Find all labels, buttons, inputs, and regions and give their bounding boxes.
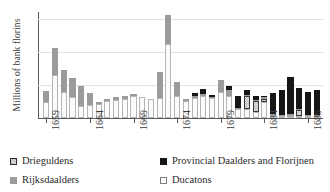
bar-segment <box>69 97 75 118</box>
y-axis-line <box>38 12 39 119</box>
bar-1676 <box>192 93 198 118</box>
bar-segment <box>61 70 67 92</box>
bar-segment <box>261 102 267 118</box>
bar-1684 <box>261 96 267 118</box>
bar-segment <box>157 72 163 99</box>
bar-1667 <box>113 97 119 118</box>
bar-segment <box>165 15 171 44</box>
bar-1679 <box>218 80 224 118</box>
bar-segment <box>235 96 241 108</box>
x-tick-mark <box>264 118 265 123</box>
bar-segment <box>244 96 250 108</box>
bar-segment <box>253 112 259 118</box>
x-tick-mark <box>221 118 222 123</box>
bar-1668 <box>122 96 128 118</box>
bar-1672 <box>157 72 163 118</box>
legend-item: Ducatons <box>160 175 326 186</box>
bar-1683 <box>253 96 259 118</box>
bar-1682 <box>244 90 250 118</box>
bar-segment <box>218 80 224 92</box>
gridline <box>38 19 323 20</box>
bar-1669 <box>130 94 136 118</box>
bar-segment <box>87 93 93 105</box>
bar-1686 <box>279 90 285 118</box>
bar-segment <box>209 98 215 118</box>
bar-segment <box>43 91 49 103</box>
legend-label: Provincial Daalders and Florijnen <box>172 156 314 167</box>
legend-label: Ducatons <box>172 175 212 186</box>
bar-1659 <box>43 91 49 118</box>
x-tick-label: 1664 <box>94 96 105 130</box>
bar-segment <box>78 106 84 118</box>
bar-1677 <box>200 89 206 118</box>
bar-segment <box>174 82 180 96</box>
bar-segment <box>174 96 180 118</box>
legend-item: Drieguldens <box>10 156 160 167</box>
bar-segment <box>296 116 302 118</box>
bar-1666 <box>104 99 110 118</box>
x-tick-mark <box>134 118 135 123</box>
bar-segment <box>78 86 84 106</box>
bar-segment <box>192 98 198 118</box>
bar-segment <box>157 98 163 118</box>
bar-1664 <box>87 93 93 118</box>
x-tick-label: 1689 <box>312 96 323 130</box>
legend-swatch-icon <box>160 158 167 165</box>
y-axis-title: Millions of bank florins <box>12 6 22 124</box>
bar-segment <box>296 88 302 109</box>
x-tick-label: 1659 <box>50 96 61 130</box>
x-tick-label: 1684 <box>268 96 279 130</box>
bar-segment <box>287 77 293 114</box>
x-tick-mark <box>308 118 309 123</box>
bar-1678 <box>209 95 215 118</box>
bar-1674 <box>174 82 180 118</box>
legend-item: Rijksdaalders <box>10 175 160 186</box>
bar-1662 <box>69 78 75 118</box>
bar-segment <box>279 90 285 115</box>
bar-1673 <box>165 15 171 118</box>
bar-segment <box>165 44 171 118</box>
bar-1689 <box>305 92 311 118</box>
plot-area: 02461659166416691674167916841689 <box>38 12 323 118</box>
bar-1688 <box>296 88 302 118</box>
chart-legend: DrieguldensProvincial Daalders and Flori… <box>10 152 326 190</box>
bar-segment <box>130 96 136 118</box>
bar-segment <box>200 96 206 118</box>
chart-figure: Millions of bank florins 024616591664166… <box>0 0 330 192</box>
bar-segment <box>43 102 49 118</box>
legend-swatch-icon <box>10 177 17 184</box>
bar-segment <box>87 105 93 118</box>
legend-label: Drieguldens <box>22 156 73 167</box>
bar-segment <box>218 92 224 118</box>
bar-segment <box>61 92 67 119</box>
x-tick-label: 1669 <box>138 96 149 130</box>
x-tick-label: 1679 <box>225 96 236 130</box>
bar-segment <box>235 109 241 118</box>
x-tick-mark <box>90 118 91 123</box>
x-tick-mark <box>177 118 178 123</box>
legend-swatch-icon <box>160 177 167 184</box>
bar-segment <box>113 100 119 118</box>
bar-segment <box>69 78 75 97</box>
bar-segment <box>122 99 128 118</box>
bar-1663 <box>78 86 84 118</box>
bar-segment <box>279 116 285 118</box>
bar-segment <box>244 109 250 118</box>
legend-swatch-icon <box>10 158 17 165</box>
bar-1681 <box>235 96 241 118</box>
bar-segment <box>52 48 58 75</box>
legend-item: Provincial Daalders and Florijnen <box>160 156 326 167</box>
bar-1661 <box>61 70 67 118</box>
legend-label: Rijksdaalders <box>22 175 79 186</box>
bar-segment <box>305 92 311 114</box>
gridline <box>38 52 323 53</box>
bar-1687 <box>287 77 293 118</box>
bar-segment <box>287 116 293 118</box>
x-tick-label: 1674 <box>181 96 192 130</box>
bar-segment <box>104 101 110 118</box>
x-tick-mark <box>46 118 47 123</box>
bar-segment <box>253 101 259 112</box>
